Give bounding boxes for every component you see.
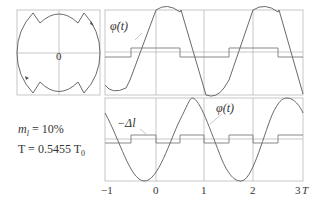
period-value: T = 0.5455 T xyxy=(18,142,81,156)
x-axis: −1 0 1 2 3 T xyxy=(101,184,309,196)
period-annotation: T = 0.5455 T0 xyxy=(18,142,85,158)
origin-label: 0 xyxy=(56,50,62,62)
tick-label: −1 xyxy=(101,184,113,196)
period-subscript: 0 xyxy=(81,149,85,158)
delta-l-label: −Δl xyxy=(117,116,136,130)
angle-label: φ(t) xyxy=(216,101,234,115)
mass-ratio-annotation: ml = 10% xyxy=(18,122,64,138)
tick-label: 0 xyxy=(153,184,159,196)
label-leader xyxy=(210,114,222,124)
velocity-panel: φ̇(t) xyxy=(105,6,303,96)
mass-value: = 10% xyxy=(29,122,64,136)
label-leader xyxy=(135,33,142,40)
tick-label: 1 xyxy=(201,184,207,196)
velocity-label: φ̇(t) xyxy=(110,19,128,33)
angle-panel: −Δl φ(t) xyxy=(105,98,303,181)
tick-label: 2 xyxy=(250,184,256,196)
axis-unit: T xyxy=(302,184,309,196)
figure-canvas: φ̇(t) −Δl φ(t) −1 0 1 2 3 T 0 xyxy=(0,0,324,203)
label-leader xyxy=(140,129,146,134)
mass-symbol: m xyxy=(18,122,27,136)
tick-label: 3 xyxy=(295,184,301,196)
arrow-icon xyxy=(25,76,29,80)
